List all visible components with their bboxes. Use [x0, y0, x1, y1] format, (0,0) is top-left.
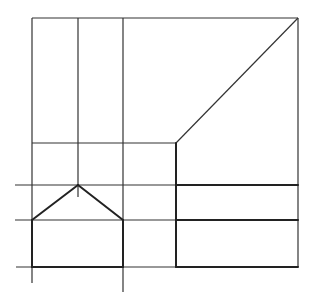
construction-lines [15, 18, 298, 292]
projection-diagram [0, 0, 312, 303]
outline-lines [32, 143, 298, 267]
diagonal-line [176, 18, 298, 143]
roof-left-line [32, 185, 78, 220]
roof-right-line [78, 185, 123, 220]
